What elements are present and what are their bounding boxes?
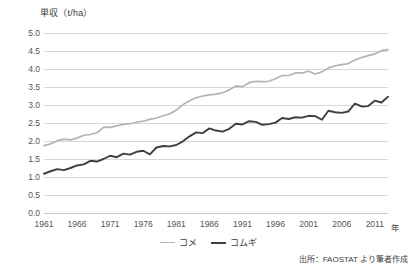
- y-tick-label: 3.0: [28, 100, 40, 110]
- y-axis-title: 単収（t/ha）: [40, 6, 93, 19]
- y-tick-label: 0.5: [28, 190, 40, 200]
- x-tick-label: 1991: [233, 219, 252, 229]
- x-tick-label: 1986: [200, 219, 219, 229]
- x-tick-label: 2001: [299, 219, 318, 229]
- x-tick-label: 2011: [366, 219, 384, 229]
- gridline: [44, 213, 388, 214]
- legend-swatch-rice-icon: [160, 242, 175, 243]
- x-tick-label: 1971: [101, 219, 120, 229]
- y-tick-label: 3.5: [28, 82, 40, 92]
- series-lines: [44, 33, 388, 213]
- y-tick-label: 1.0: [28, 172, 40, 182]
- plot-area: 5.04.54.03.53.02.52.01.51.00.50.0 196119…: [44, 33, 388, 213]
- x-tick-label: 1981: [167, 219, 186, 229]
- x-axis-title: 年: [391, 221, 400, 233]
- y-tick-label: 2.5: [28, 118, 40, 128]
- source-note: 出所：FAOSTAT より筆者作成: [299, 253, 408, 264]
- legend-swatch-wheat-icon: [211, 242, 226, 244]
- x-tick-label: 2006: [332, 219, 351, 229]
- chart-legend: コメ コムギ: [0, 236, 416, 249]
- x-tick-label: 1966: [68, 219, 87, 229]
- y-tick-label: 5.0: [28, 28, 40, 38]
- legend-label-wheat: コムギ: [230, 236, 257, 249]
- x-tick-label: 1996: [266, 219, 285, 229]
- legend-item-wheat: コムギ: [211, 236, 257, 249]
- legend-item-rice: コメ: [160, 236, 197, 249]
- y-tick-label: 2.0: [28, 136, 40, 146]
- y-tick-label: 4.0: [28, 64, 40, 74]
- series-line-wheat: [44, 97, 388, 174]
- legend-label-rice: コメ: [179, 236, 197, 249]
- yield-line-chart: 単収（t/ha） 5.04.54.03.53.02.52.01.51.00.50…: [0, 0, 416, 269]
- y-tick-label: 0.0: [28, 208, 40, 218]
- y-tick-label: 1.5: [28, 154, 40, 164]
- y-tick-label: 4.5: [28, 46, 40, 56]
- x-tick-label: 1961: [35, 219, 54, 229]
- x-tick-label: 1976: [134, 219, 153, 229]
